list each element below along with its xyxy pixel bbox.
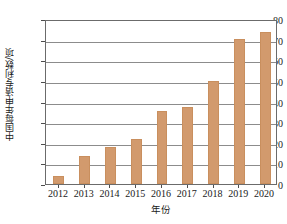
x-tick-mark [58, 185, 59, 188]
bar-chart-figure: 中国每年申请专利数/项 01020304050607080 2012201320… [0, 0, 287, 224]
y-axis-title: 中国每年申请专利数/项 [0, 0, 18, 190]
x-tick-label: 2019 [228, 188, 248, 199]
x-tick-mark [109, 185, 110, 188]
bar [157, 111, 168, 184]
plot-area [45, 20, 277, 185]
bars-layer [46, 21, 276, 184]
x-tick-label: 2016 [151, 188, 171, 199]
x-tick-mark [213, 185, 214, 188]
x-tick-label: 2017 [177, 188, 197, 199]
x-tick-label: 2012 [48, 188, 68, 199]
x-tick-mark [238, 185, 239, 188]
y-axis-title-text: 中国每年申请专利数/项 [5, 48, 14, 141]
x-tick-label: 2013 [74, 188, 94, 199]
bar [79, 156, 90, 184]
bar [105, 147, 116, 184]
bar [182, 107, 193, 184]
x-tick-mark [187, 185, 188, 188]
bar [53, 176, 64, 184]
x-tick-label: 2015 [125, 188, 145, 199]
x-tick-label: 2014 [99, 188, 119, 199]
x-tick-mark [264, 185, 265, 188]
x-axis-title: 年份 [45, 202, 277, 216]
bar [208, 81, 219, 184]
x-tick-mark [161, 185, 162, 188]
x-tick-mark [135, 185, 136, 188]
bar [260, 32, 271, 184]
x-tick-label: 2020 [254, 188, 274, 199]
bar [234, 39, 245, 184]
x-tick-label: 2018 [203, 188, 223, 199]
y-tick-mark [41, 185, 45, 186]
bar [131, 139, 142, 184]
x-tick-mark [84, 185, 85, 188]
